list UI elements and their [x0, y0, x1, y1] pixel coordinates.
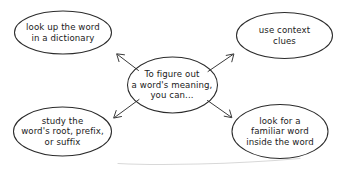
node-context[interactable]: use context clues — [236, 12, 333, 59]
node-center-label: To figure out a word's meaning, you can.… — [132, 69, 213, 100]
node-roots[interactable]: study the word's root, prefix, or suffix — [13, 107, 112, 156]
node-familiar[interactable]: look for a familiar word inside the word — [231, 104, 329, 159]
node-context-label: use context clues — [259, 25, 310, 46]
node-center-topic[interactable]: To figure out a word's meaning, you can.… — [127, 57, 217, 113]
scan-smudge — [118, 159, 300, 165]
node-dictionary[interactable]: look up the word in a dictionary — [14, 11, 112, 54]
node-dictionary-label: look up the word in a dictionary — [26, 22, 100, 43]
node-familiar-label: look for a familiar word inside the word — [246, 116, 314, 147]
node-roots-label: study the word's root, prefix, or suffix — [21, 116, 104, 147]
